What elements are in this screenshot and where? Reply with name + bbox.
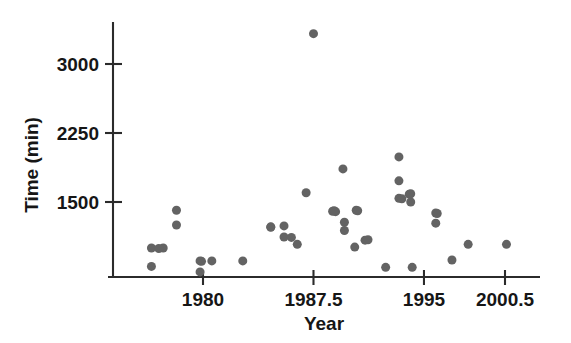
data-point [350,243,359,252]
data-point [238,256,247,265]
data-points-layer [147,29,511,276]
data-point [502,240,511,249]
data-point [433,209,442,218]
data-point [266,223,275,232]
data-point [405,190,414,199]
data-point [353,206,362,215]
y-axis: 150022503000 Time (min) [21,22,122,277]
chart-canvas: 150022503000 Time (min) 19801987.5199520… [0,0,571,343]
data-point [361,236,370,245]
data-point [172,221,181,230]
data-point [287,233,296,242]
data-point [464,240,473,249]
data-point [293,240,302,249]
data-point [172,206,181,215]
data-point [302,188,311,197]
x-tick-label: 1987.5 [284,289,343,310]
data-point [197,257,206,266]
x-tick-labels: 19801987.519952000.5 [182,289,535,310]
scatter-plot-figure: 150022503000 Time (min) 19801987.5199520… [0,0,571,343]
data-point [394,176,403,185]
data-point [406,198,415,207]
y-tick-label: 2250 [57,123,99,144]
data-point [394,152,403,161]
y-tick-labels: 150022503000 [57,54,99,213]
x-tick-label: 1995 [403,289,446,310]
data-point [381,263,390,272]
x-tick-label: 1980 [182,289,224,310]
data-point [309,29,318,38]
data-point [207,256,216,265]
data-point [280,221,289,230]
x-axis-title: Year [304,313,345,334]
y-axis-title: Time (min) [21,117,42,213]
y-tick-label: 1500 [57,192,99,213]
data-point [154,244,163,253]
y-tick-label: 3000 [57,54,99,75]
data-point [447,255,456,264]
data-point [340,218,349,227]
x-axis: 19801987.519952000.5 Year [108,270,540,334]
data-point [330,206,339,215]
data-point [408,263,417,272]
data-point [340,226,349,235]
data-point [147,262,156,271]
x-tick-label: 2000.5 [476,289,535,310]
data-point [431,219,440,228]
data-point [196,267,205,276]
data-point [338,164,347,173]
